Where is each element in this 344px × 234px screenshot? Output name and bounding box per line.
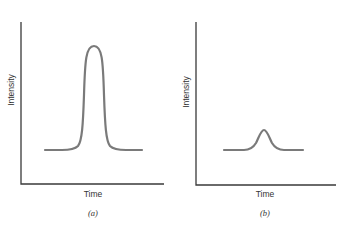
figure: Intensity Time (a) Intensity Time (b)	[0, 0, 344, 234]
panel-a-ylabel: Intensity	[6, 73, 16, 105]
panel-b: Intensity Time (b)	[181, 22, 336, 218]
panel-b-caption: (b)	[260, 208, 270, 218]
panel-a-caption: (a)	[88, 208, 98, 218]
panel-a-curve	[45, 46, 142, 150]
panel-a-xlabel: Time	[84, 189, 103, 199]
panel-b-ylabel: Intensity	[181, 75, 191, 107]
panel-b-xlabel: Time	[256, 189, 275, 199]
panel-b-curve	[224, 130, 303, 150]
panel-a: Intensity Time (a)	[6, 22, 164, 218]
panel-b-axes	[196, 22, 336, 185]
